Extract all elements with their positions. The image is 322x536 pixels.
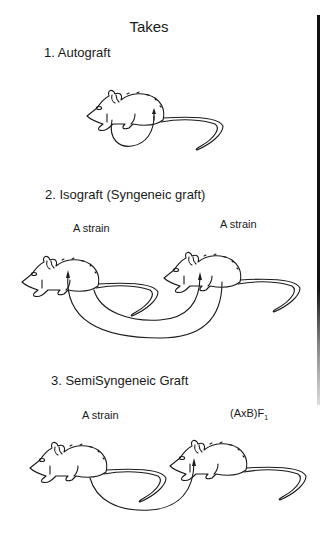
semisyngeneic-recipient-mouse bbox=[170, 440, 306, 500]
autograft-mouse bbox=[87, 90, 223, 150]
isograft-recipient-mouse bbox=[164, 252, 300, 312]
diagram-artwork bbox=[0, 0, 322, 536]
isograft-donor-mouse bbox=[22, 256, 158, 316]
